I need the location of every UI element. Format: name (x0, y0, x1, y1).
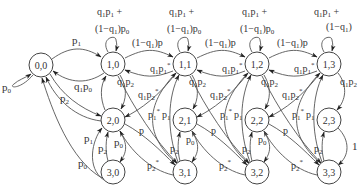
node-3-3: 3,3 (317, 160, 341, 184)
svg-text:1,2: 1,2 (251, 59, 264, 70)
svg-text:2,3: 2,3 (323, 115, 336, 126)
node-2-3: 2,3 (317, 108, 341, 132)
node-3-2: 3,2 (245, 160, 269, 184)
edge-30-20-p2 (106, 132, 108, 161)
svg-text:3,2: 3,2 (251, 167, 264, 178)
label-12-22: q1p2 (261, 76, 279, 89)
label-self-10-line2: (1−q1)p0 (95, 23, 130, 36)
label-10-11: (1−q1)p (132, 37, 163, 50)
label-12-11: q1p1* (222, 61, 243, 76)
label-11-10: q1p1* (150, 61, 171, 76)
node-2-2: 2,2 (245, 108, 269, 132)
edge-self-10 (106, 37, 117, 52)
edge-33-23 (322, 132, 324, 161)
node-1-0: 1,0 (101, 52, 125, 76)
node-1-3: 1,3 (317, 52, 341, 76)
label-12-21: q1p2* (210, 87, 231, 102)
label-11-20: q1p2* (138, 87, 159, 102)
label-21-31: p0 (186, 134, 195, 147)
edge-32-22 (250, 132, 252, 161)
label-self-11-line1: q1p1 + (169, 6, 195, 19)
label-31-20: p2* (147, 158, 160, 173)
label-32-22: p2 (242, 143, 251, 156)
label-32-21: p2* (219, 158, 232, 173)
svg-text:3,3: 3,3 (323, 167, 336, 178)
svg-text:2,0: 2,0 (107, 115, 120, 126)
node-3-1: 3,1 (173, 160, 197, 184)
edge-31-21 (178, 132, 180, 161)
label-33-23: p2 (314, 143, 323, 156)
node-2-0: 2,0 (101, 108, 125, 132)
label-30-20-p1: p1 (84, 132, 94, 146)
label-self-12-line1: q1p1 + (242, 6, 268, 19)
label-00-10: p1 (72, 34, 82, 48)
edge-labels: p0 p1 q1p0 p2 p1 p2 p0 p0 q1p1 + (1−q1)p… (2, 6, 358, 173)
label-22-33: p (283, 125, 288, 136)
label-11-21: q1p2 (189, 76, 207, 89)
svg-text:2,2: 2,2 (251, 115, 264, 126)
label-23-33: 1 (352, 140, 358, 152)
node-0-0: 0,0 (29, 53, 53, 77)
label-10-20: q1p2 (117, 76, 135, 89)
label-22-32: p0 (258, 134, 267, 147)
label-12-13: (1−q1)p (277, 37, 308, 50)
edge-20-10 (101, 76, 106, 110)
label-20-30: p0 (114, 136, 124, 150)
edge-23-33 (338, 128, 347, 165)
edge-10-11 (125, 50, 173, 58)
node-1-2: 1,2 (245, 52, 269, 76)
node-2-1: 2,1 (173, 108, 197, 132)
label-20-31: p (139, 125, 144, 136)
svg-text:3,0: 3,0 (107, 167, 120, 178)
label-13-22: q1p2* (282, 87, 303, 102)
edge-00-10 (52, 49, 101, 59)
edge-12-13 (269, 50, 317, 58)
edge-self-13 (322, 37, 333, 52)
svg-text:1,0: 1,0 (107, 59, 120, 70)
label-self-11-line2: (1−q1)p0 (167, 23, 202, 36)
svg-text:1,1: 1,1 (179, 59, 192, 70)
label-self-13-line1: q1p1 + (314, 6, 340, 19)
label-11-12: (1−q1)p (205, 37, 236, 50)
edge-self-12 (250, 37, 261, 52)
label-self-00: p0 (2, 81, 12, 95)
label-self-13-line2: (1−q1) (326, 21, 352, 34)
label-self-10-line1: q1p1 + (97, 6, 123, 19)
edge-self-11 (178, 37, 189, 52)
label-21-32: p (211, 125, 216, 136)
label-10-00: q1p0 (74, 80, 93, 94)
svg-text:1,3: 1,3 (323, 59, 336, 70)
svg-text:2,1: 2,1 (179, 115, 192, 126)
edge-11-12 (197, 50, 245, 58)
label-30-00: p0 (78, 157, 88, 171)
label-33-22: p2* (291, 158, 304, 173)
markov-chain-diagram: 0,0 1,0 1,1 1,2 1,3 2,0 2,1 2,2 2,3 3,0 … (0, 0, 363, 188)
node-1-1: 1,1 (173, 52, 197, 76)
label-00-20: p2 (60, 92, 70, 106)
label-13-12: q1p1* (294, 61, 315, 76)
node-3-0: 3,0 (101, 160, 125, 184)
edge-self-00 (12, 74, 33, 87)
svg-text:0,0: 0,0 (35, 60, 48, 71)
label-self-12-line2: (1−q1)p0 (240, 23, 275, 36)
svg-text:3,1: 3,1 (179, 167, 192, 178)
label-13-23: q1p2 (340, 76, 358, 89)
label-31-21: p2 (170, 143, 179, 156)
